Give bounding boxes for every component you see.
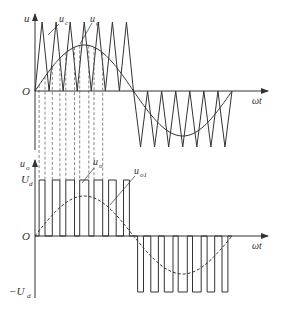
spwm-diagram: u O ωt u c u g u o U d O −U d ωt u o u o… bbox=[0, 0, 285, 321]
carrier-label: u bbox=[59, 13, 64, 24]
signal-label-sub: g bbox=[96, 19, 100, 27]
output-label-sub: o bbox=[99, 162, 103, 170]
output-label: u bbox=[93, 156, 98, 167]
ud-level-label-sub: d bbox=[29, 180, 33, 188]
output-leader-line bbox=[82, 168, 94, 183]
lower-y-label-sub: o bbox=[26, 164, 30, 172]
fundamental-dashed-sine bbox=[35, 196, 232, 274]
signal-label: u bbox=[90, 13, 95, 24]
lower-origin-label: O bbox=[22, 230, 30, 242]
carrier-label-sub: c bbox=[65, 19, 69, 27]
neg-ud-level-label: −U bbox=[9, 285, 25, 297]
lower-plot: u o U d O −U d ωt u o u o1 bbox=[9, 156, 268, 300]
upper-y-label: u bbox=[24, 12, 30, 24]
carrier-triangle-wave bbox=[35, 22, 232, 147]
lower-x-label: ωt bbox=[252, 240, 262, 251]
fundamental-label-sub: o1 bbox=[140, 171, 147, 179]
upper-origin-label: O bbox=[22, 85, 30, 97]
neg-ud-level-label-sub: d bbox=[27, 292, 31, 300]
upper-x-label: ωt bbox=[252, 95, 262, 106]
fundamental-label: u bbox=[134, 165, 139, 176]
lower-y-label: u bbox=[20, 158, 25, 169]
upper-plot: u O ωt u c u g bbox=[22, 12, 268, 180]
